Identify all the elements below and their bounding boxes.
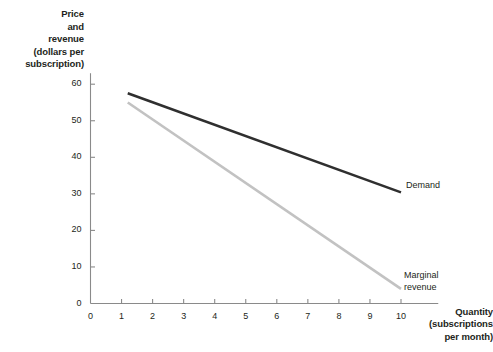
series-line-demand: [128, 93, 401, 192]
x-axis-tick-label: 4: [205, 311, 225, 321]
x-axis-tick-label: 2: [143, 311, 163, 321]
axis-ticks: [91, 84, 402, 303]
x-axis-tick-label: 8: [329, 311, 349, 321]
x-axis-tick-label: 3: [174, 311, 194, 321]
x-axis-tick-label: 5: [236, 311, 256, 321]
y-axis-tick-label: 30: [60, 188, 82, 198]
y-axis-tick-label: 40: [60, 151, 82, 161]
y-axis-tick-label: 60: [60, 78, 82, 88]
x-axis-tick-label: 1: [112, 311, 132, 321]
y-axis-tick-label: 0: [60, 298, 82, 308]
chart-container: Price and revenue (dollars per subscript…: [0, 0, 493, 352]
data-series: [128, 93, 401, 289]
series-line-marginal-revenue: [128, 102, 401, 288]
y-axis-tick-label: 50: [60, 115, 82, 125]
x-axis-tick-label: 10: [391, 311, 411, 321]
x-axis-tick-label: 6: [267, 311, 287, 321]
x-axis-tick-label: 7: [298, 311, 318, 321]
y-axis-tick-label: 10: [60, 261, 82, 271]
x-axis-tick-label: 0: [81, 311, 101, 321]
x-axis-tick-label: 9: [360, 311, 380, 321]
y-axis-tick-label: 20: [60, 224, 82, 234]
